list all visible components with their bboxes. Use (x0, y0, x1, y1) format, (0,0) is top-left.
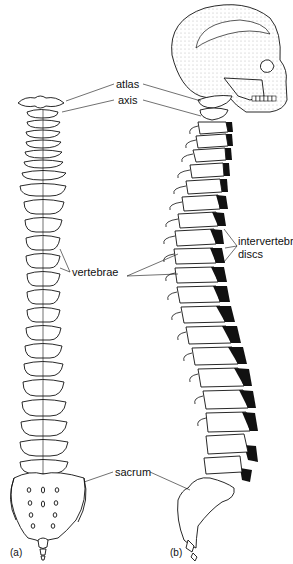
front-spine (10, 96, 86, 560)
label-atlas: atlas (116, 78, 139, 90)
side-spine (164, 5, 287, 561)
caption-panel-b: (b) (170, 547, 182, 558)
label-vertebrae: vertebrae (72, 266, 118, 278)
spine-diagram: atlas axis intervertebral discs vertebra… (0, 0, 293, 564)
label-sacrum: sacrum (115, 466, 151, 478)
label-axis: axis (118, 94, 138, 106)
label-intervertebral: intervertebral (238, 235, 293, 247)
label-discs: discs (238, 248, 263, 260)
spine-illustration (0, 0, 293, 564)
caption-panel-a: (a) (10, 547, 22, 558)
